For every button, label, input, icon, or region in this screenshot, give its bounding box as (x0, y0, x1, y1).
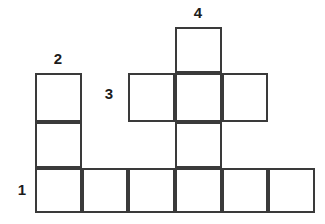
clue-number-1: 1 (11, 182, 33, 202)
grid-cell[interactable] (175, 168, 222, 213)
grid-cell[interactable] (35, 122, 82, 168)
grid-cell[interactable] (128, 168, 175, 213)
clue-number-4: 4 (187, 5, 209, 25)
clue-number-2: 2 (47, 51, 69, 71)
grid-cell[interactable] (175, 73, 222, 122)
grid-cell[interactable] (175, 122, 222, 168)
grid-cell[interactable] (222, 73, 268, 122)
grid-cell[interactable] (175, 27, 222, 73)
grid-cell[interactable] (35, 73, 82, 122)
grid-cell[interactable] (35, 168, 82, 213)
grid-cell[interactable] (268, 168, 315, 213)
grid-cell[interactable] (222, 168, 268, 213)
grid-cell[interactable] (128, 73, 175, 122)
clue-number-3: 3 (98, 86, 120, 106)
grid-cell[interactable] (82, 168, 128, 213)
crossword-puzzle-grid: 1234 (0, 0, 325, 224)
